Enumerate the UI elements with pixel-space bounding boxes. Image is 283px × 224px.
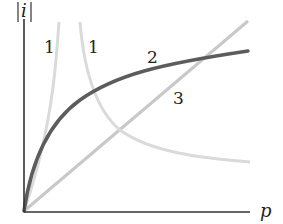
curve-1-right-label: 1 <box>88 37 99 57</box>
current-vs-p-diagram: i p 1 1 2 3 <box>0 0 283 224</box>
curve-2 <box>24 51 248 211</box>
y-axis-label: i <box>21 0 27 21</box>
x-axis-label: p <box>260 200 272 221</box>
curve-1-left-label: 1 <box>44 37 55 57</box>
curve-2-label: 2 <box>147 47 158 67</box>
curve-3-label: 3 <box>173 88 184 108</box>
